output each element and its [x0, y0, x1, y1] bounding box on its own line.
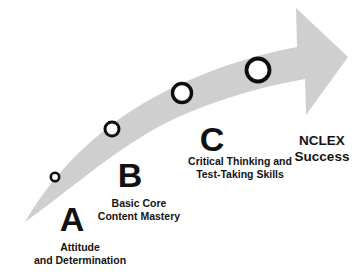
progress-marker-a: [51, 173, 59, 181]
step-caption-a: Attitude and Determination: [34, 241, 126, 267]
progress-marker-c: [173, 84, 192, 103]
goal-label-line1: NCLEX: [295, 133, 350, 149]
step-letter-c: C: [200, 122, 225, 156]
step-letter-a: A: [60, 202, 85, 236]
step-caption-b-line1: Basic Core: [98, 197, 180, 210]
goal-label: NCLEX Success: [295, 133, 350, 166]
progress-marker-b: [105, 122, 119, 136]
goal-label-line2: Success: [295, 149, 350, 165]
step-caption-c-line2: Test-Taking Skills: [188, 168, 292, 181]
step-caption-a-line1: Attitude: [34, 241, 126, 254]
step-caption-b-line2: Content Mastery: [98, 210, 180, 223]
diagram-canvas: A Attitude and Determination B Basic Cor…: [0, 0, 364, 280]
step-caption-b: Basic Core Content Mastery: [98, 197, 180, 223]
step-letter-b: B: [118, 158, 143, 192]
step-caption-c: Critical Thinking and Test-Taking Skills: [188, 155, 292, 181]
step-caption-c-line1: Critical Thinking and: [188, 155, 292, 168]
progress-marker-goal: [247, 59, 270, 82]
step-caption-a-line2: and Determination: [34, 254, 126, 267]
